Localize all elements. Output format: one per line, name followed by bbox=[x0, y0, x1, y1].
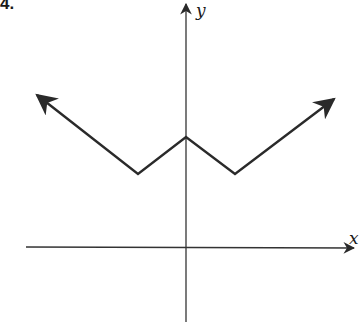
graph-canvas bbox=[0, 0, 359, 323]
x-axis bbox=[26, 247, 354, 248]
